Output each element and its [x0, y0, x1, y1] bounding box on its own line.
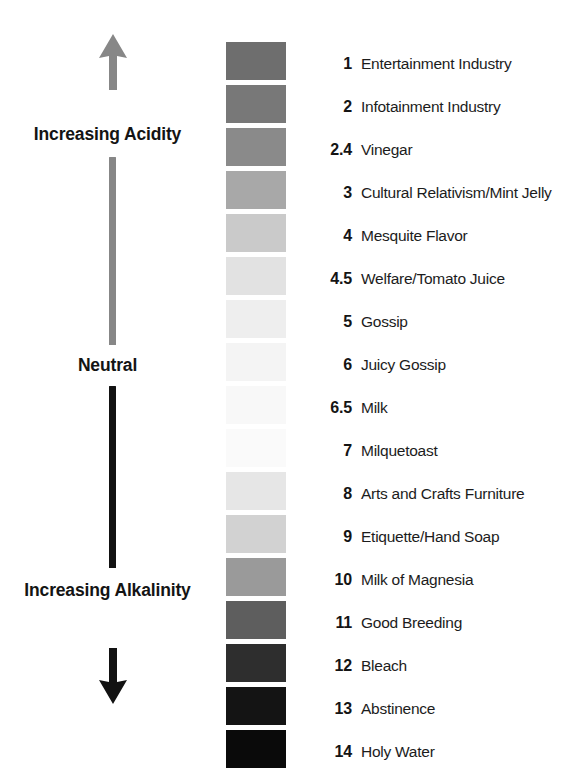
ph-legend-list: 1Entertainment Industry2Infotainment Ind… — [308, 42, 573, 772]
axis-label-increasing-acidity: Increasing Acidity — [0, 124, 215, 145]
ph-axis: Increasing Acidity Neutral Increasing Al… — [0, 0, 215, 719]
legend-row: 11Good Breeding — [308, 601, 573, 644]
legend-label: Abstinence — [361, 700, 435, 718]
legend-number: 12 — [308, 657, 352, 675]
legend-number: 3 — [308, 184, 352, 202]
legend-row: 6Juicy Gossip — [308, 343, 573, 386]
legend-number: 10 — [308, 571, 352, 589]
arrow-down-icon — [92, 648, 134, 704]
ph-color-swatch — [226, 257, 286, 295]
legend-number: 4.5 — [308, 270, 352, 288]
ph-color-swatch — [226, 687, 286, 725]
legend-label: Etiquette/Hand Soap — [361, 528, 499, 546]
legend-label: Welfare/Tomato Juice — [361, 270, 505, 288]
ph-color-swatch — [226, 214, 286, 252]
axis-line-acidic — [109, 157, 116, 345]
legend-label: Cultural Relativism/Mint Jelly — [361, 184, 552, 202]
legend-row: 10Milk of Magnesia — [308, 558, 573, 601]
ph-color-swatch-column — [226, 42, 286, 772]
legend-row: 2.4Vinegar — [308, 128, 573, 171]
legend-number: 6.5 — [308, 399, 352, 417]
legend-number: 2.4 — [308, 141, 352, 159]
legend-row: 3Cultural Relativism/Mint Jelly — [308, 171, 573, 214]
legend-number: 9 — [308, 528, 352, 546]
ph-color-swatch — [226, 644, 286, 682]
legend-row: 8Arts and Crafts Furniture — [308, 472, 573, 515]
axis-label-neutral: Neutral — [0, 355, 215, 376]
ph-color-swatch — [226, 601, 286, 639]
legend-label: Milk of Magnesia — [361, 571, 473, 589]
legend-number: 14 — [308, 743, 352, 761]
legend-label: Bleach — [361, 657, 407, 675]
ph-color-swatch — [226, 171, 286, 209]
ph-color-swatch — [226, 300, 286, 338]
legend-row: 12Bleach — [308, 644, 573, 687]
legend-row: 14Holy Water — [308, 730, 573, 772]
legend-label: Mesquite Flavor — [361, 227, 468, 245]
ph-color-swatch — [226, 85, 286, 123]
ph-color-swatch — [226, 386, 286, 424]
legend-label: Arts and Crafts Furniture — [361, 485, 524, 503]
axis-label-increasing-alkalinity: Increasing Alkalinity — [0, 580, 215, 601]
legend-row: 6.5Milk — [308, 386, 573, 429]
legend-label: Gossip — [361, 313, 408, 331]
legend-number: 2 — [308, 98, 352, 116]
ph-color-swatch — [226, 515, 286, 553]
ph-color-swatch — [226, 429, 286, 467]
legend-label: Entertainment Industry — [361, 55, 511, 73]
legend-number: 4 — [308, 227, 352, 245]
ph-color-swatch — [226, 343, 286, 381]
legend-row: 5Gossip — [308, 300, 573, 343]
legend-label: Milk — [361, 399, 388, 417]
legend-number: 13 — [308, 700, 352, 718]
legend-number: 6 — [308, 356, 352, 374]
ph-color-swatch — [226, 730, 286, 768]
ph-color-swatch — [226, 128, 286, 166]
legend-number: 8 — [308, 485, 352, 503]
legend-row: 7Milquetoast — [308, 429, 573, 472]
legend-number: 1 — [308, 55, 352, 73]
axis-line-alkaline — [109, 386, 116, 568]
legend-label: Infotainment Industry — [361, 98, 501, 116]
legend-number: 5 — [308, 313, 352, 331]
ph-color-swatch — [226, 558, 286, 596]
legend-row: 1Entertainment Industry — [308, 42, 573, 85]
ph-color-swatch — [226, 42, 286, 80]
legend-label: Milquetoast — [361, 442, 438, 460]
legend-number: 11 — [308, 614, 352, 632]
ph-color-swatch — [226, 472, 286, 510]
legend-row: 9Etiquette/Hand Soap — [308, 515, 573, 558]
legend-row: 4.5Welfare/Tomato Juice — [308, 257, 573, 300]
legend-label: Juicy Gossip — [361, 356, 446, 374]
legend-label: Holy Water — [361, 743, 435, 761]
legend-label: Good Breeding — [361, 614, 462, 632]
legend-label: Vinegar — [361, 141, 412, 159]
legend-row: 13Abstinence — [308, 687, 573, 730]
legend-number: 7 — [308, 442, 352, 460]
legend-row: 2Infotainment Industry — [308, 85, 573, 128]
legend-row: 4Mesquite Flavor — [308, 214, 573, 257]
arrow-up-icon — [92, 34, 134, 90]
